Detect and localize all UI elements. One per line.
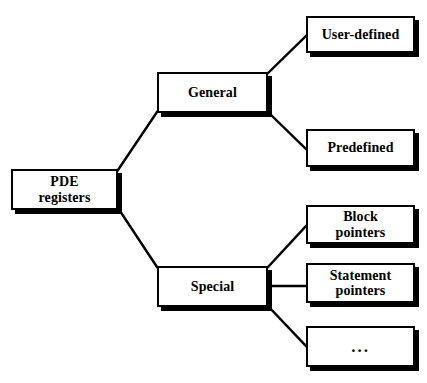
- edge-pde-registers-to-general: [118, 112, 157, 170]
- node-predefined[interactable]: Predefined: [306, 129, 415, 167]
- node-label-general: General: [184, 85, 241, 100]
- edge-special-to-ellipsis: [268, 306, 306, 346]
- node-ellipsis[interactable]: ...: [306, 326, 415, 367]
- edge-general-to-predefined: [268, 112, 306, 149]
- node-label-predefined: Predefined: [323, 140, 397, 155]
- node-label-block-pointers: Block pointers: [332, 209, 390, 239]
- node-label-special: Special: [187, 279, 238, 294]
- node-user-defined[interactable]: User-defined: [306, 16, 415, 53]
- edge-special-to-block-pointers: [268, 226, 306, 267]
- node-label-pde-registers: PDE registers: [35, 174, 95, 204]
- node-label-statement-pointers: Statement pointers: [326, 268, 396, 298]
- node-block-pointers[interactable]: Block pointers: [306, 205, 415, 244]
- diagram-canvas: PDE registersGeneralSpecialUser-definedP…: [0, 0, 427, 383]
- node-label-ellipsis: ...: [351, 337, 370, 357]
- node-general[interactable]: General: [157, 72, 268, 113]
- node-special[interactable]: Special: [157, 266, 268, 307]
- edge-pde-registers-to-special: [118, 208, 157, 267]
- node-label-user-defined: User-defined: [318, 27, 404, 42]
- node-pde-registers[interactable]: PDE registers: [11, 169, 118, 210]
- node-statement-pointers[interactable]: Statement pointers: [306, 263, 415, 303]
- edge-general-to-user-defined: [268, 36, 306, 73]
